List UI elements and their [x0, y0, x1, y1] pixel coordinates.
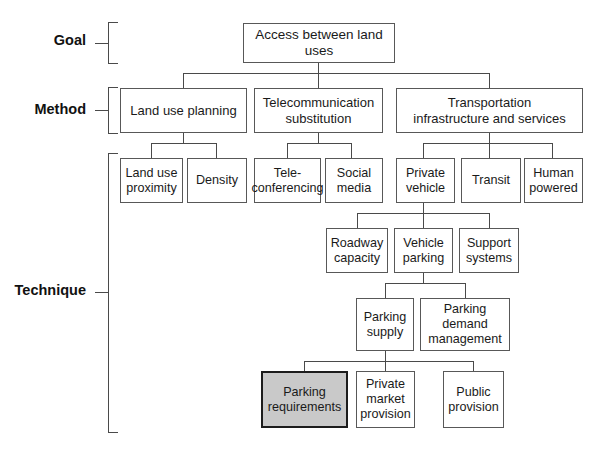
node-label-line1: Parking	[444, 302, 487, 317]
connector-to-parking-supply	[385, 283, 386, 298]
connector-to-vehicle-parking	[423, 213, 424, 228]
node-parking-demand-management[interactable]: Parking demand management	[420, 298, 510, 351]
node-label-line2: conferencing	[251, 181, 323, 196]
node-label-line1: Private	[406, 166, 445, 181]
bracket-tick-method	[95, 110, 108, 111]
hierarchy-diagram: Goal Method Technique Ac	[0, 0, 603, 457]
node-label-line1: Tele-	[274, 166, 301, 181]
node-label-line1: Support	[467, 236, 511, 251]
node-label-line2: requirements	[268, 400, 342, 415]
node-label-line2: capacity	[334, 251, 380, 266]
node-label-line1: Vehicle	[403, 236, 444, 251]
node-label: Access between land uses	[247, 27, 391, 59]
connector-to-telecom	[318, 73, 319, 88]
node-telecommunication-substitution[interactable]: Telecommunication substitution	[254, 88, 383, 133]
node-public-provision[interactable]: Public provision	[443, 371, 504, 428]
node-private-vehicle[interactable]: Private vehicle	[396, 158, 455, 203]
node-label-line1: Parking	[364, 310, 407, 325]
node-roadway-capacity[interactable]: Roadway capacity	[326, 228, 388, 273]
connector-to-human-powered	[552, 143, 553, 158]
connector-to-density	[216, 143, 217, 158]
connector-to-land-use-proximity	[151, 143, 152, 158]
node-label: Land use planning	[130, 103, 236, 118]
node-label-line2: powered	[529, 181, 577, 196]
node-label-line2: media	[337, 181, 371, 196]
level-label-technique: Technique	[0, 282, 86, 298]
connector-to-social-media	[351, 143, 352, 158]
connector-to-transportation	[489, 73, 490, 88]
node-human-powered[interactable]: Human powered	[524, 158, 583, 203]
node-label-line2: vehicle	[406, 181, 445, 196]
bracket-tick-technique	[95, 292, 108, 293]
connector-to-transit	[489, 143, 490, 158]
node-label-line2: substitution	[286, 111, 352, 126]
node-support-systems[interactable]: Support systems	[459, 228, 519, 273]
node-label-line1: Public	[456, 385, 490, 400]
node-label-line2: provision	[448, 400, 498, 415]
node-access-between-land-uses[interactable]: Access between land uses	[243, 23, 395, 63]
node-social-media[interactable]: Social media	[325, 158, 383, 203]
connector-method-bus	[183, 73, 490, 74]
node-label-line2: parking	[403, 251, 444, 266]
connector-to-private-vehicle	[423, 143, 424, 158]
node-teleconferencing[interactable]: Tele- conferencing	[254, 158, 321, 203]
level-label-method: Method	[4, 101, 86, 117]
connector-telecom-bus	[287, 143, 351, 144]
node-label-line1: Land use	[126, 166, 178, 181]
connector-to-roadway-capacity	[357, 213, 358, 228]
connector-to-land-use-planning	[183, 73, 184, 88]
node-label-line1: Social	[337, 166, 371, 181]
node-label-line2: proximity	[126, 181, 176, 196]
node-label-line2: supply	[367, 325, 403, 340]
node-label-line2: demand	[442, 317, 488, 332]
node-density[interactable]: Density	[187, 158, 247, 203]
node-parking-requirements[interactable]: Parking requirements	[261, 371, 348, 428]
connector-to-parking-demand	[465, 283, 466, 298]
connector-land-use-planning-bus	[151, 143, 216, 144]
node-parking-supply[interactable]: Parking supply	[356, 298, 414, 351]
bracket-tick-goal	[95, 43, 108, 44]
node-label-line1: Parking	[268, 385, 342, 400]
connector-transportation-bus	[423, 143, 552, 144]
node-label-line1: Telecommunication	[263, 95, 374, 110]
connector-vehicle-parking-bus	[385, 283, 465, 284]
node-transit[interactable]: Transit	[461, 158, 521, 203]
node-land-use-planning[interactable]: Land use planning	[120, 88, 247, 133]
bracket-method	[108, 87, 118, 134]
node-label-line1: Private	[366, 377, 405, 392]
node-transportation-infrastructure-and-services[interactable]: Transportation infrastructure and servic…	[396, 88, 583, 133]
node-label-line1: Human	[533, 166, 574, 181]
node-private-market-provision[interactable]: Private market provision	[356, 371, 415, 428]
node-label-line2: market	[366, 392, 405, 407]
node-label: Density	[196, 173, 238, 188]
node-label-line2: systems	[466, 251, 512, 266]
bracket-goal	[108, 22, 118, 64]
node-label-line2: infrastructure and services	[413, 111, 565, 126]
node-label-line3: management	[428, 332, 502, 347]
node-vehicle-parking[interactable]: Vehicle parking	[394, 228, 453, 273]
connector-to-teleconferencing	[287, 143, 288, 158]
node-label-line1: Transportation	[448, 95, 531, 110]
node-land-use-proximity[interactable]: Land use proximity	[120, 158, 183, 203]
node-label: Transit	[472, 173, 510, 188]
level-label-goal: Goal	[14, 32, 86, 48]
bracket-technique	[108, 153, 118, 433]
node-label-line3: provision	[360, 407, 410, 422]
connector-to-support-systems	[489, 213, 490, 228]
connector-parking-supply-bus	[304, 361, 473, 362]
node-label-line1: Roadway	[331, 236, 384, 251]
connector-parking-supply-drop	[385, 351, 386, 361]
